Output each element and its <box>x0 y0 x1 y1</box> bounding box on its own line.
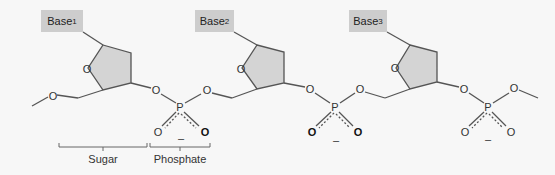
oxygen-atom: O <box>49 91 58 102</box>
base-3-label: Base3 <box>349 10 387 32</box>
phosphate-2-charge: – <box>333 134 339 146</box>
phosphate-3-oxygen-left: O <box>460 84 469 95</box>
phosphate-2-oxygen-lower-left: O <box>308 127 317 138</box>
phosphate-1-oxygen-lower-right: O <box>201 127 210 138</box>
backbone-drawing <box>0 0 555 175</box>
phosphate-label: Phosphate <box>154 153 207 165</box>
phosphate-2-oxygen-lower-right: O <box>354 127 363 138</box>
phosphate-1-oxygen-left: O <box>152 85 161 96</box>
phosphate-2-oxygen-right: O <box>356 84 365 95</box>
base-1-label: Base1 <box>41 10 83 32</box>
phosphate-3-phosphorus: P <box>484 102 491 113</box>
phosphate-3-oxygen-right: O <box>510 83 519 94</box>
ring-oxygen-2: O <box>237 64 246 75</box>
ring-oxygen-1: O <box>83 64 92 75</box>
phosphate-3-oxygen-lower-right: O <box>507 127 516 138</box>
phosphate-2-oxygen-left: O <box>306 84 315 95</box>
phosphate-1-phosphorus: P <box>176 102 183 113</box>
phosphate-3-charge: – <box>485 133 491 145</box>
phosphate-1-oxygen-lower-left: O <box>154 127 163 138</box>
phosphate-2-phosphorus: P <box>331 102 338 113</box>
phosphate-1-oxygen-right: O <box>203 85 212 96</box>
sugar-label: Sugar <box>88 153 117 165</box>
ring-oxygen-3: O <box>391 63 400 74</box>
base-2-label: Base2 <box>195 10 234 32</box>
phosphate-1-charge: – <box>178 132 184 144</box>
phosphate-3-oxygen-lower-left: O <box>461 127 470 138</box>
